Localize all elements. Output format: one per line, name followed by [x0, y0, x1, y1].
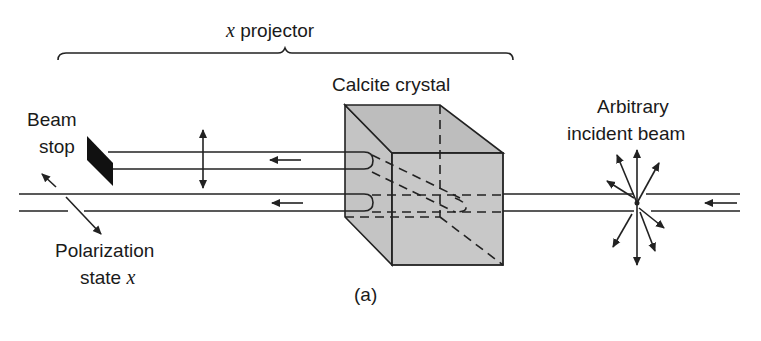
polarization-label-2: state x: [80, 266, 135, 288]
beam-stop-label-1: Beam: [27, 109, 77, 130]
crystal-label: Calcite crystal: [332, 74, 450, 95]
arbitrary-polarization-starburst: [607, 150, 664, 265]
incident-beam: [503, 194, 740, 211]
projector-brace: [58, 48, 513, 60]
crystal-front-face: [392, 153, 503, 265]
x-projector-diagram: x projector Calcite crystal Beam stop: [0, 0, 761, 341]
polarization-label-1: Polarization: [55, 240, 154, 261]
beam-stop: [87, 136, 113, 186]
polarization-x-arrow: [42, 174, 56, 187]
incident-label-1: Arbitrary: [597, 96, 669, 117]
incident-label-2: incident beam: [567, 123, 685, 144]
beam-stop-label-2: stop: [39, 136, 75, 157]
upper-beam: [108, 152, 373, 169]
figure-caption: (a): [354, 284, 377, 305]
projector-label: x projector: [225, 19, 315, 41]
